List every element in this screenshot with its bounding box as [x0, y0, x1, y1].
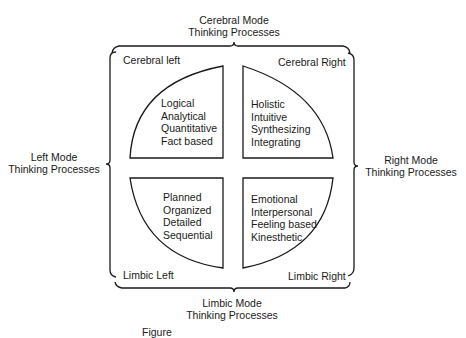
trait: Integrating [251, 136, 311, 149]
left-mode-line1: Left Mode [2, 151, 106, 163]
traits-limbic-right: Emotional Interpersonal Feeling based Ki… [251, 193, 317, 243]
trait: Holistic [251, 98, 311, 111]
trait: Sequential [163, 229, 213, 242]
trait: Logical [161, 97, 217, 110]
trait: Emotional [251, 193, 317, 206]
figure-caption: Figure [142, 326, 172, 338]
trait: Analytical [161, 110, 217, 123]
top-brace [112, 42, 350, 53]
left-mode-label: Left Mode Thinking Processes [2, 151, 106, 175]
traits-limbic-left: Planned Organized Detailed Sequential [163, 191, 213, 241]
trait: Kinesthetic [251, 231, 317, 244]
trait: Intuitive [251, 111, 311, 124]
bottom-brace [115, 282, 350, 292]
limbic-mode-line1: Limbic Mode [182, 297, 282, 309]
quadrant-name-cerebral-right: Cerebral Right [278, 56, 346, 68]
trait: Interpersonal [251, 206, 317, 219]
left-mode-line2: Thinking Processes [2, 163, 106, 175]
quadrant-name-cerebral-left: Cerebral left [123, 54, 180, 66]
quadrant-name-limbic-right: Limbic Right [288, 270, 346, 282]
trait: Quantitative [161, 122, 217, 135]
trait: Synthesizing [251, 123, 311, 136]
right-mode-line1: Right Mode [358, 154, 464, 166]
right-mode-line2: Thinking Processes [358, 166, 464, 178]
left-brace [106, 52, 116, 277]
cerebral-mode-line2: Thinking Processes [184, 26, 284, 38]
trait: Fact based [161, 135, 217, 148]
right-mode-label: Right Mode Thinking Processes [358, 154, 464, 178]
cerebral-mode-line1: Cerebral Mode [184, 14, 284, 26]
cerebral-mode-label: Cerebral Mode Thinking Processes [184, 14, 284, 38]
trait: Feeling based [251, 218, 317, 231]
quadrant-name-limbic-left: Limbic Left [123, 269, 174, 281]
traits-cerebral-left: Logical Analytical Quantitative Fact bas… [161, 97, 217, 147]
traits-cerebral-right: Holistic Intuitive Synthesizing Integrat… [251, 98, 311, 148]
trait: Detailed [163, 216, 213, 229]
trait: Organized [163, 204, 213, 217]
trait: Planned [163, 191, 213, 204]
limbic-mode-label: Limbic Mode Thinking Processes [182, 297, 282, 321]
limbic-mode-line2: Thinking Processes [182, 309, 282, 321]
right-brace [348, 53, 358, 276]
